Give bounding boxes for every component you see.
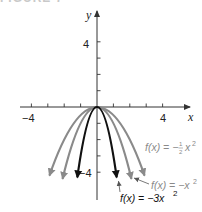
curve-right bbox=[97, 107, 131, 179]
label-three-sup: 2 bbox=[173, 189, 178, 198]
label-half-denominator: 2 bbox=[179, 149, 183, 155]
pointer-neg-x-squared bbox=[134, 178, 149, 184]
label-neg-3x-squared: f(x) = −3x bbox=[120, 192, 165, 204]
curve-right bbox=[97, 107, 117, 177]
y-tick-label-4: 4 bbox=[83, 38, 89, 50]
x-tick-label-neg4: −4 bbox=[22, 112, 35, 124]
label-one-sup: 2 bbox=[193, 178, 197, 185]
label-neg-x-squared: f(x) = −x bbox=[151, 179, 190, 191]
label-half-sup: 2 bbox=[192, 140, 196, 147]
label-prefix: f(x) = − bbox=[145, 141, 178, 153]
label-half-numerator: 1 bbox=[179, 141, 183, 147]
label-neg-half-x-squared: f(x) = − bbox=[145, 141, 178, 153]
label-half-var: x bbox=[184, 141, 191, 153]
parabola-chart: y x 4 −4 −4 4 f(x) = − 1 2 x 2 f(x) = −x… bbox=[0, 0, 202, 212]
pointer-neg-3x-squared bbox=[119, 181, 121, 192]
y-axis-label: y bbox=[85, 8, 92, 22]
y-tick-label-neg4: −4 bbox=[79, 167, 92, 179]
x-tick-label-4: 4 bbox=[160, 112, 166, 124]
x-axis-label: x bbox=[187, 110, 194, 124]
